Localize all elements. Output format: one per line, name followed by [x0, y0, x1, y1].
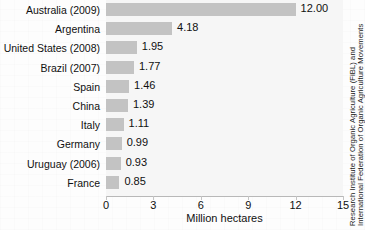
x-axis-title: Million hectares: [106, 212, 343, 224]
bar-row: 12.00: [106, 3, 343, 16]
bar: [106, 3, 296, 16]
bar-value-label: 12.00: [301, 2, 329, 14]
bar: [106, 118, 124, 131]
bar-value-label: 0.85: [124, 175, 145, 187]
bar-row: 1.11: [106, 118, 343, 131]
bar-value-label: 1.95: [142, 40, 163, 52]
chart-page: Australia (2009)ArgentinaUnited States (…: [0, 0, 365, 230]
bar: [106, 80, 129, 93]
source-note: Research Institute of Organic Agricultur…: [344, 0, 365, 230]
bar-value-label: 0.93: [126, 156, 147, 168]
x-tick-label: 3: [150, 199, 156, 211]
x-tick-label: 12: [289, 199, 301, 211]
category-label: Spain: [73, 81, 100, 93]
bar: [106, 22, 172, 35]
bar-value-label: 1.11: [129, 117, 150, 129]
plot-area: 12.004.181.951.771.461.391.110.990.930.8…: [106, 0, 343, 196]
bar-row: 0.85: [106, 176, 343, 189]
bar: [106, 61, 134, 74]
bar-value-label: 0.99: [127, 136, 148, 148]
category-axis-labels: Australia (2009)ArgentinaUnited States (…: [0, 0, 103, 196]
bar: [106, 157, 121, 170]
bar-row: 0.99: [106, 137, 343, 150]
category-label: Uruguay (2006): [27, 158, 100, 170]
bar-row: 4.18: [106, 22, 343, 35]
category-label: France: [67, 177, 100, 189]
x-tick-label: 6: [198, 199, 204, 211]
category-label: Argentina: [55, 23, 100, 35]
bar: [106, 176, 119, 189]
bar: [106, 41, 137, 54]
category-label: United States (2008): [4, 42, 100, 54]
bar-row: 1.95: [106, 41, 343, 54]
source-note-line-2: International Federation of Organic Agri…: [356, 24, 365, 226]
bar: [106, 99, 128, 112]
x-tick-label: 0: [103, 199, 109, 211]
x-axis-line: [106, 196, 343, 197]
bar-row: 1.77: [106, 61, 343, 74]
category-label: Italy: [81, 119, 100, 131]
bar-value-label: 1.39: [133, 98, 154, 110]
bar-value-label: 1.77: [139, 60, 160, 72]
category-label: Brazil (2007): [40, 62, 100, 74]
bar-row: 1.46: [106, 80, 343, 93]
category-label: China: [73, 100, 100, 112]
bar-value-label: 4.18: [177, 21, 198, 33]
category-label: Germany: [57, 138, 100, 150]
category-label: Australia (2009): [26, 4, 100, 16]
bar-value-label: 1.46: [134, 79, 155, 91]
bar: [106, 137, 122, 150]
x-tick-label: 9: [245, 199, 251, 211]
bar-row: 1.39: [106, 99, 343, 112]
bar-row: 0.93: [106, 157, 343, 170]
